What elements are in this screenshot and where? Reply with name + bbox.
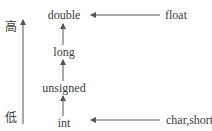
node-float: float — [165, 8, 188, 22]
low-label: 低 — [5, 111, 17, 125]
high-label: 高 — [5, 19, 17, 34]
type-conversion-diagram: 高 低 double long unsigned int float char,… — [0, 0, 212, 131]
node-unsigned: unsigned — [42, 81, 85, 95]
node-long: long — [53, 45, 74, 59]
node-double: double — [48, 8, 81, 22]
node-char-short: char,short — [166, 113, 212, 127]
node-int: int — [58, 116, 71, 130]
